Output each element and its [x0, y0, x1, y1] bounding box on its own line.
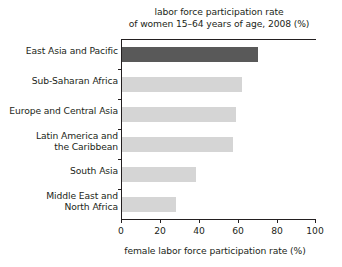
y-axis-label-line: the Caribbean: [54, 141, 118, 152]
x-axis-ticklabel-60: 60: [218, 225, 258, 236]
y-axis-label-line: East Asia and Pacific: [26, 45, 118, 56]
bar-east-asia-and-pacific[interactable]: [122, 47, 258, 62]
chart-title-line-2: of women 15–64 years of age, 2008 (%): [113, 18, 325, 30]
y-axis-label-line: Middle East and: [46, 190, 118, 201]
bar-row-middle-east-and-north-africa: [122, 197, 316, 212]
x-axis-ticklabel-80: 80: [257, 225, 297, 236]
chart-title: labor force participation rate of women …: [113, 6, 325, 29]
bar-row-east-asia-and-pacific: [122, 47, 316, 62]
bar-row-europe-and-central-asia: [122, 107, 316, 122]
x-axis-tick-40: [199, 220, 200, 223]
y-axis-label-line: North Africa: [64, 201, 118, 212]
x-axis-line: [121, 219, 316, 220]
y-axis-label-east-asia-and-pacific: East Asia and Pacific: [2, 46, 118, 57]
y-axis-tick: [118, 129, 121, 130]
x-axis-ticklabel-20: 20: [140, 225, 180, 236]
x-axis-tick-80: [277, 220, 278, 223]
y-axis-label-middle-east-and-north-africa: Middle East and North Africa: [2, 191, 118, 212]
x-axis-tick-60: [238, 220, 239, 223]
x-axis-title: female labor force participation rate (%…: [90, 245, 340, 256]
x-axis-ticklabel-0: 0: [101, 225, 141, 236]
bar-south-asia[interactable]: [122, 167, 196, 182]
y-axis-label-latin-america-and-the-caribbean: Latin America and the Caribbean: [2, 131, 118, 152]
bar-latin-america-and-the-caribbean[interactable]: [122, 137, 233, 152]
x-axis-tick-0: [121, 220, 122, 223]
bar-sub-saharan-africa[interactable]: [122, 77, 242, 92]
x-axis-ticklabel-40: 40: [179, 225, 219, 236]
x-axis-ticklabel-100: 100: [295, 225, 335, 236]
y-axis-label-south-asia: South Asia: [2, 166, 118, 177]
y-axis-label-europe-and-central-asia: Europe and Central Asia: [2, 106, 118, 117]
bar-row-sub-saharan-africa: [122, 77, 316, 92]
bar-row-south-asia: [122, 167, 316, 182]
chart-figure: labor force participation rate of women …: [0, 0, 342, 267]
y-axis-label-line: Latin America and: [36, 130, 118, 141]
y-axis-label-line: Europe and Central Asia: [9, 105, 118, 116]
y-axis-label-line: South Asia: [70, 165, 118, 176]
y-axis-tick: [118, 69, 121, 70]
plot-area: 0 20 40 60 80 100: [121, 39, 316, 219]
bar-series: [122, 39, 316, 219]
x-axis-tick-20: [160, 220, 161, 223]
y-axis-labels: East Asia and Pacific Sub-Saharan Africa…: [0, 39, 118, 219]
bar-row-latin-america-and-the-caribbean: [122, 137, 316, 152]
bar-europe-and-central-asia[interactable]: [122, 107, 236, 122]
y-axis-tick: [118, 189, 121, 190]
y-axis-tick: [118, 99, 121, 100]
y-axis-label-line: Sub-Saharan Africa: [32, 75, 118, 86]
chart-title-line-1: labor force participation rate: [113, 6, 325, 18]
bar-middle-east-and-north-africa[interactable]: [122, 197, 176, 212]
x-axis-tick-100: [315, 220, 316, 223]
y-axis-tick: [118, 159, 121, 160]
y-axis-label-sub-saharan-africa: Sub-Saharan Africa: [2, 76, 118, 87]
